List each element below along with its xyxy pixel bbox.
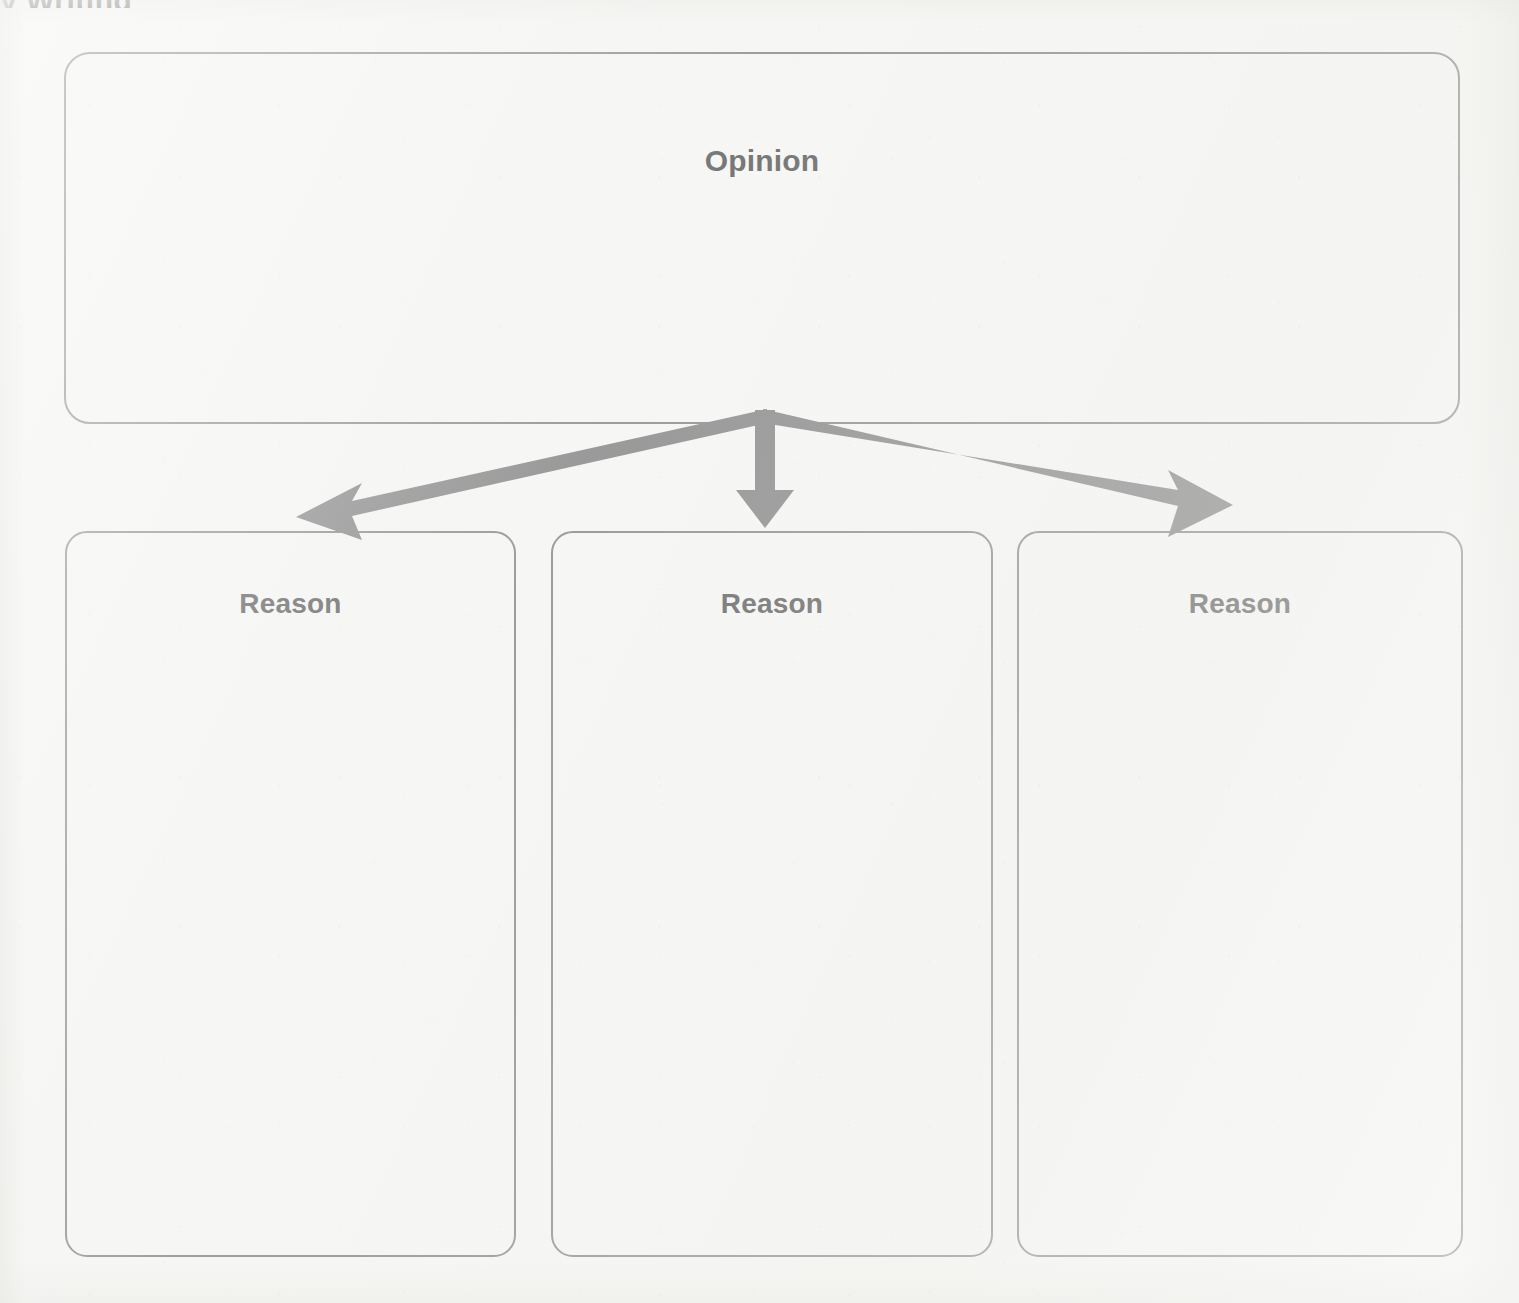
reason-box-2-label: Reason <box>553 588 991 620</box>
arrow-to-reason-2 <box>736 410 794 528</box>
arrow-to-reason-3 <box>763 409 1233 537</box>
opinion-box[interactable]: Opinion <box>64 52 1460 424</box>
reason-box-1-label: Reason <box>67 588 514 620</box>
arrow-to-reason-1 <box>296 409 767 540</box>
reason-box-3-label: Reason <box>1019 588 1461 620</box>
opinion-box-label: Opinion <box>66 144 1458 178</box>
reason-box-2[interactable]: Reason <box>551 531 993 1257</box>
cropped-header-text: y Writing <box>0 0 520 8</box>
reason-box-1[interactable]: Reason <box>65 531 516 1257</box>
reason-box-3[interactable]: Reason <box>1017 531 1463 1257</box>
